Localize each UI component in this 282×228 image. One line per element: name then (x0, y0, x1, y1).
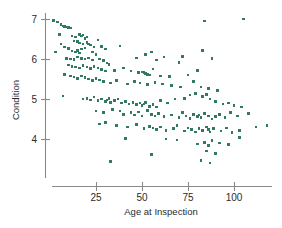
data-point (80, 48, 83, 51)
data-point (154, 115, 157, 118)
data-point (166, 102, 169, 105)
data-point (152, 103, 155, 106)
data-point (150, 51, 153, 54)
data-point (198, 114, 201, 117)
plot-canvas: 4567 255075100 Age at Inspection Conditi… (0, 0, 282, 228)
data-point (95, 53, 98, 56)
data-point (82, 34, 85, 37)
data-point (150, 113, 153, 116)
data-point (135, 123, 138, 126)
data-point (152, 68, 155, 71)
data-point (178, 61, 181, 64)
data-point (104, 70, 107, 73)
data-point (176, 139, 179, 142)
data-point (104, 121, 107, 124)
data-point (98, 58, 101, 61)
data-point (181, 111, 184, 114)
data-point (60, 43, 63, 46)
data-point (172, 127, 175, 130)
data-point (95, 110, 98, 113)
data-point (212, 127, 215, 130)
data-point (115, 79, 118, 82)
data-point (89, 99, 92, 102)
data-point (93, 65, 96, 68)
data-point (137, 71, 140, 74)
data-point (74, 51, 77, 54)
data-point (236, 115, 239, 118)
data-point (168, 75, 171, 78)
data-point (128, 103, 131, 106)
data-point (238, 136, 241, 139)
data-point (179, 86, 182, 89)
data-point (97, 39, 100, 42)
data-point (185, 115, 188, 118)
data-point (227, 102, 230, 105)
data-point (231, 131, 234, 134)
data-point (78, 42, 81, 45)
data-point (218, 113, 221, 116)
data-point (73, 76, 76, 79)
data-point (67, 47, 70, 50)
data-point (141, 115, 144, 118)
y-tick-label: 7 (31, 14, 37, 25)
data-point (97, 99, 100, 102)
data-point (113, 69, 116, 72)
data-point (201, 129, 204, 132)
data-point (93, 96, 96, 99)
data-point (207, 115, 210, 118)
data-point (203, 141, 206, 144)
data-point (108, 63, 111, 66)
data-point (102, 111, 105, 114)
data-point (155, 128, 158, 131)
data-point (152, 127, 155, 130)
y-tick-label: 6 (31, 54, 37, 65)
data-point (126, 83, 129, 86)
data-point (201, 95, 204, 98)
data-point (194, 131, 197, 134)
data-point (183, 130, 186, 133)
data-point (238, 129, 241, 132)
data-point (183, 97, 186, 100)
data-point (176, 124, 179, 127)
data-point (122, 67, 125, 70)
data-point (170, 84, 173, 87)
data-point (209, 98, 212, 101)
data-point (139, 82, 142, 85)
data-point (130, 70, 133, 73)
data-point (161, 83, 164, 86)
data-point (198, 127, 201, 130)
data-point (100, 98, 103, 101)
data-point (82, 98, 85, 101)
data-point (63, 73, 66, 76)
data-point (224, 116, 227, 119)
data-point (108, 97, 111, 100)
data-point (154, 81, 157, 84)
data-point (144, 101, 147, 104)
x-tick-label: 75 (182, 192, 194, 203)
data-point (146, 83, 149, 86)
data-point (240, 106, 243, 109)
y-tick-label: 4 (31, 134, 37, 145)
x-tick-label: 50 (136, 192, 148, 203)
data-point (98, 79, 101, 82)
data-point (203, 20, 206, 23)
data-point (78, 67, 81, 70)
y-axis-title: Condition (10, 80, 21, 120)
data-point (100, 45, 103, 48)
data-point (200, 159, 203, 162)
scatter-plot-figure: 4567 255075100 Age at Inspection Conditi… (0, 0, 282, 228)
data-point (104, 48, 107, 51)
data-point (120, 102, 123, 105)
data-point (111, 108, 114, 111)
data-point (130, 111, 133, 114)
data-point (102, 59, 105, 62)
data-point (126, 126, 129, 129)
data-point (189, 117, 192, 120)
data-point (205, 93, 208, 96)
data-point (76, 77, 79, 80)
data-point (155, 59, 158, 62)
data-point (203, 112, 206, 115)
data-point (225, 127, 228, 130)
data-point (148, 74, 151, 77)
data-point (71, 65, 74, 68)
